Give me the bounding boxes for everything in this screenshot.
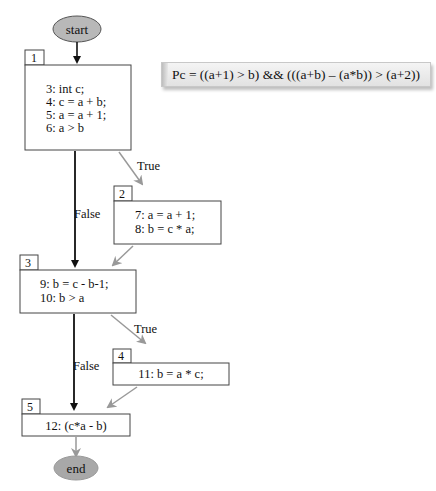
node-1-id: 1 — [31, 51, 37, 65]
end-terminal[interactable]: end — [54, 456, 98, 480]
node-3-line: 9: b = c - b-1; — [40, 277, 109, 291]
node-1-line: 4: c = a + b; — [46, 95, 106, 109]
edge-label-true-2: True — [134, 322, 158, 336]
node-4-line: 11: b = a * c; — [138, 367, 203, 381]
node-1-line: 5: a = a + 1; — [46, 108, 106, 122]
end-label: end — [67, 461, 86, 476]
start-terminal[interactable]: start — [53, 16, 101, 42]
node-3-id: 3 — [25, 256, 31, 270]
node-5-id: 5 — [27, 400, 33, 414]
node-3-line: 10: b > a — [40, 291, 85, 305]
node-2-line: 7: a = a + 1; — [135, 208, 195, 222]
path-condition-box: Pc = ((a+1) > b) && (((a+b) – (a*b)) > (… — [161, 62, 431, 87]
node-2-id: 2 — [119, 187, 125, 201]
edge-2-to-3 — [113, 246, 133, 265]
node-3[interactable]: 3 9: b = c - b-1; 10: b > a — [20, 255, 136, 313]
node-4[interactable]: 4 11: b = a * c; — [113, 349, 229, 385]
edge-label-false-2: False — [73, 359, 100, 373]
start-label: start — [66, 22, 89, 37]
node-1[interactable]: 1 3: int c; 4: c = a + b; 5: a = a + 1; … — [25, 50, 131, 150]
node-1-line: 6: a > b — [46, 121, 84, 135]
edge-4-to-5 — [108, 387, 137, 407]
path-condition-text: Pc = ((a+1) > b) && (((a+b) – (a*b)) > (… — [172, 67, 420, 83]
node-4-id: 4 — [118, 349, 124, 363]
node-5[interactable]: 5 12: (c*a - b) — [22, 399, 130, 436]
edge-label-true-1: True — [137, 159, 161, 173]
node-2-line: 8: b = c * a; — [135, 222, 194, 236]
node-2[interactable]: 2 7: a = a + 1; 8: b = c * a; — [114, 186, 221, 244]
node-1-line: 3: int c; — [46, 82, 84, 96]
edge-label-false-1: False — [74, 207, 101, 221]
node-5-line: 12: (c*a - b) — [45, 419, 106, 433]
